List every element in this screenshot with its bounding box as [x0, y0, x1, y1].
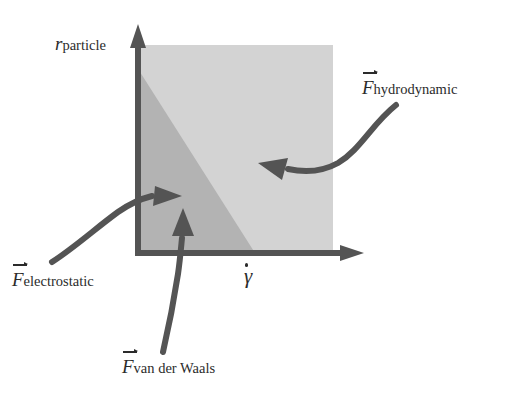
- label-van-der-waals-subscript: van der Waals: [134, 360, 216, 376]
- label-hydrodynamic-subscript: hydrodynamic: [374, 81, 458, 97]
- vector-f-symbol-hydrodynamic: F: [362, 78, 374, 97]
- label-electrostatic-subscript: electrostatic: [24, 273, 94, 289]
- label-van-der-waals: F van der Waals: [122, 357, 215, 376]
- y-axis-label: rparticle: [55, 34, 106, 53]
- force-regime-diagram: rparticle γ F hydrodynamic F electrostat…: [0, 0, 508, 399]
- diagram-canvas: [0, 0, 508, 399]
- vector-f-symbol-electrostatic: F: [12, 270, 24, 289]
- label-hydrodynamic: F hydrodynamic: [362, 78, 457, 97]
- x-axis-symbol: γ: [244, 266, 252, 287]
- gamma-overdot-accent: [245, 263, 248, 266]
- y-axis-arrowhead: [130, 24, 146, 48]
- vector-arrow-accent: [363, 72, 377, 73]
- vector-f-symbol-van-der-waals: F: [122, 357, 134, 376]
- x-axis-label: γ: [244, 266, 252, 287]
- x-axis-arrowhead: [340, 245, 364, 261]
- vector-arrow-accent: [123, 351, 137, 352]
- y-axis-subscript: particle: [62, 37, 105, 53]
- vector-arrow-accent: [13, 264, 27, 265]
- label-electrostatic: F electrostatic: [12, 270, 94, 289]
